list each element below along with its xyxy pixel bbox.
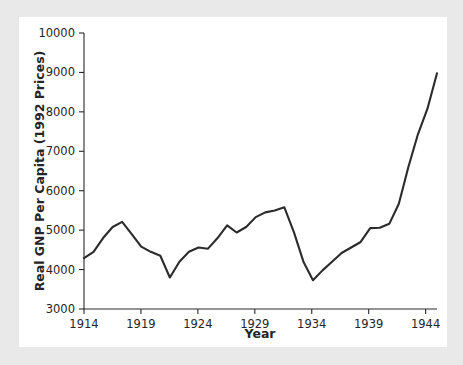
y-tick-label: 3000 [46,302,75,316]
gnp-series-line [84,73,437,280]
x-tick-label: 1944 [411,317,440,331]
x-tick-label: 1934 [297,317,326,331]
chart-figure: 300040005000600070008000900010000 191419… [0,0,463,365]
x-tick-label: 1939 [354,317,383,331]
x-tick-label: 1924 [183,317,212,331]
y-tick-label: 4000 [46,263,75,277]
y-tick-label: 5000 [46,223,75,237]
y-tick-label: 10000 [38,26,75,40]
y-axis-ticks [79,33,84,309]
y-tick-label: 9000 [46,65,75,79]
axis-spines [84,33,437,309]
y-axis-title: Real GNP Per Capita (1992 Prices) [32,51,47,292]
y-tick-label: 8000 [46,105,75,119]
y-tick-label: 7000 [46,144,75,158]
y-tick-label: 6000 [46,184,75,198]
x-tick-label: 1919 [126,317,155,331]
x-axis-title: Year [244,326,277,341]
x-axis-ticks [84,309,426,314]
x-tick-label: 1914 [69,317,98,331]
chart-plot-area: 300040005000600070008000900010000 191419… [0,0,463,365]
